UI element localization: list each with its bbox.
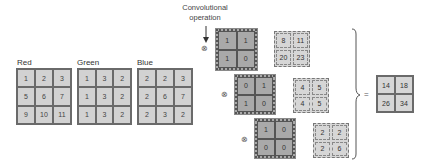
result-cell: 2 — [315, 142, 330, 157]
input-label-red: Red — [17, 58, 32, 67]
kernel-cell: 0 — [275, 139, 293, 157]
matrix-cell: 9 — [17, 106, 35, 124]
result-cell: 23 — [293, 50, 308, 65]
result-cell: 5 — [312, 97, 327, 112]
matrix-cell: 6 — [35, 87, 53, 105]
result-matrix-1: 8 11 20 23 — [274, 31, 310, 67]
matrix-cell: 2 — [113, 69, 131, 87]
matrix-cell: 2 — [113, 106, 131, 124]
matrix-cell: 11 — [53, 106, 71, 124]
input-matrix-red: 1 2 3 5 6 7 9 10 11 — [16, 68, 72, 125]
matrix-cell: 2 — [156, 69, 174, 87]
matrix-cell: 1 — [78, 106, 96, 124]
matrix-cell: 2 — [35, 69, 53, 87]
matrix-cell: 3 — [174, 69, 192, 87]
matrix-cell: 7 — [53, 87, 71, 105]
matrix-cell: 3 — [96, 106, 114, 124]
result-cell: 5 — [312, 80, 327, 95]
matrix-cell: 1 — [78, 69, 96, 87]
convolve-operator-icon: ⊗ — [241, 136, 248, 144]
result-matrix-3: 2 2 2 6 — [313, 123, 349, 158]
equals-sign: = — [364, 90, 369, 99]
arrow-down-icon — [202, 26, 210, 44]
matrix-cell: 10 — [35, 106, 53, 124]
output-cell: 34 — [395, 94, 413, 112]
kernel-cell: 0 — [257, 139, 275, 157]
right-brace-icon — [350, 28, 362, 160]
matrix-cell: 1 — [78, 87, 96, 105]
output-cell: 18 — [395, 76, 413, 94]
kernel-cell: 0 — [237, 77, 255, 95]
kernel-cell: 1 — [218, 31, 237, 50]
result-cell: 6 — [332, 142, 347, 157]
input-label-blue: Blue — [137, 58, 153, 67]
matrix-cell: 3 — [96, 87, 114, 105]
matrix-cell: 2 — [138, 69, 156, 87]
convolve-operator-icon: ⊗ — [201, 45, 208, 53]
kernel-cell: 1 — [257, 121, 275, 139]
result-matrix-2: 4 5 4 5 — [293, 78, 329, 113]
result-cell: 11 — [293, 33, 308, 48]
kernel-cell: 0 — [255, 95, 273, 113]
matrix-cell: 1 — [17, 69, 35, 87]
result-cell: 20 — [276, 50, 291, 65]
matrix-cell: 2 — [138, 87, 156, 105]
kernel-cell: 1 — [237, 31, 256, 50]
convolve-operator-icon: ⊗ — [221, 91, 228, 99]
output-cell: 14 — [377, 76, 395, 94]
input-label-green: Green — [77, 58, 99, 67]
convolution-caption: Convolutional operation — [172, 3, 238, 23]
matrix-cell: 7 — [174, 87, 192, 105]
kernel-matrix-2: 0 1 1 0 — [235, 75, 275, 114]
kernel-cell: 1 — [218, 50, 237, 69]
matrix-cell: 5 — [17, 87, 35, 105]
caption-line-2: operation — [172, 13, 238, 23]
kernel-cell: 0 — [275, 121, 293, 139]
kernel-cell: 1 — [255, 77, 273, 95]
kernel-cell: 0 — [237, 50, 256, 69]
kernel-cell: 1 — [237, 95, 255, 113]
result-cell: 2 — [332, 125, 347, 140]
kernel-matrix-3: 1 0 0 0 — [255, 119, 295, 158]
matrix-cell: 2 — [138, 106, 156, 124]
matrix-cell: 2 — [174, 106, 192, 124]
result-cell: 4 — [295, 97, 310, 112]
caption-line-1: Convolutional — [172, 3, 238, 13]
matrix-cell: 6 — [156, 87, 174, 105]
matrix-cell: 2 — [113, 87, 131, 105]
matrix-cell: 3 — [156, 106, 174, 124]
final-output-matrix: 14 18 26 34 — [376, 75, 414, 113]
matrix-cell: 3 — [53, 69, 71, 87]
kernel-matrix-1: 1 1 1 0 — [216, 29, 257, 70]
input-matrix-blue: 2 2 3 2 6 7 2 3 2 — [137, 68, 193, 125]
matrix-cell: 3 — [96, 69, 114, 87]
result-cell: 8 — [276, 33, 291, 48]
result-cell: 4 — [295, 80, 310, 95]
output-cell: 26 — [377, 94, 395, 112]
result-cell: 2 — [315, 125, 330, 140]
input-matrix-green: 1 3 2 1 3 2 1 3 2 — [77, 68, 132, 125]
